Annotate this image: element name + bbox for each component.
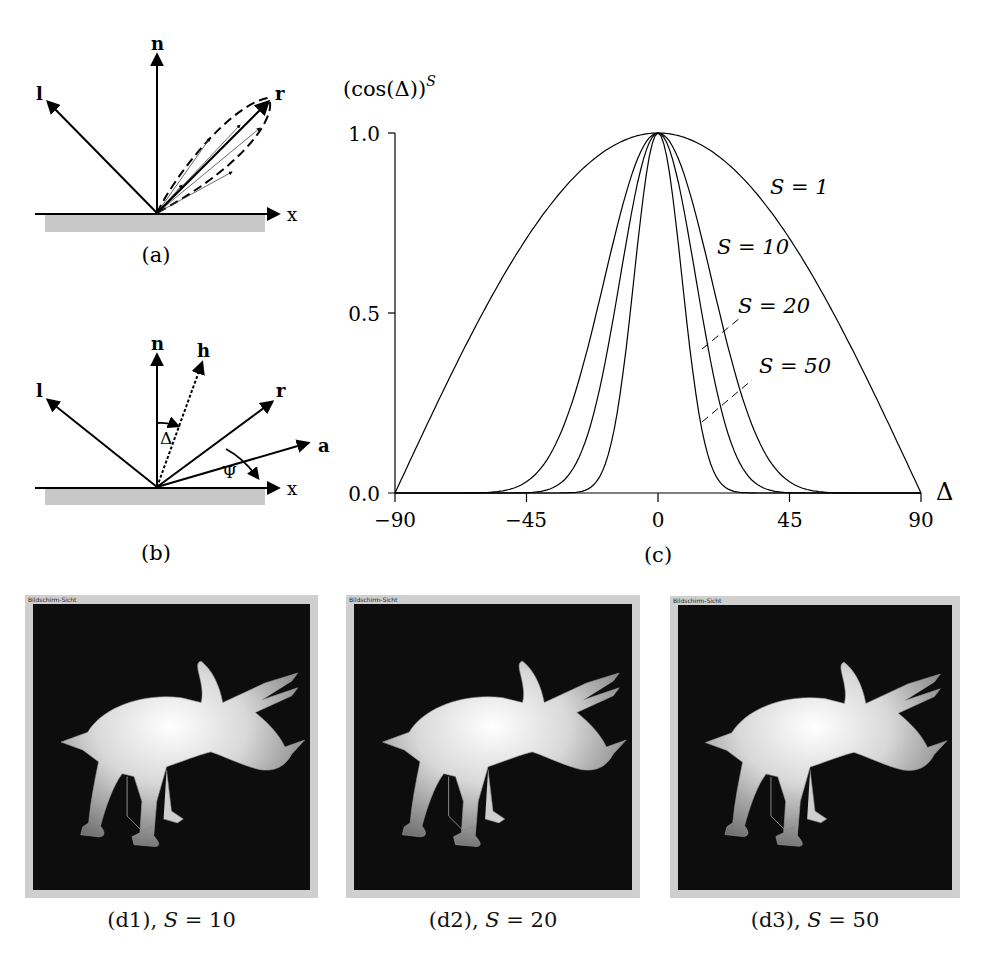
curve-label-s20: S = 20 [738, 294, 810, 318]
x-tick-90: 90 [908, 508, 933, 532]
render-viewport [354, 604, 632, 890]
label-n: n [151, 33, 164, 54]
caption-d1: (d1), S = 10 [25, 908, 318, 932]
window-title: Bildschirm-Sicht [673, 597, 721, 604]
label-r: r [276, 380, 286, 401]
surface [45, 489, 265, 505]
label-h: h [197, 340, 210, 361]
label-psi: Ψ [222, 462, 237, 482]
diagram-b: n h l r a x Δ Ψ (b) [0, 280, 330, 570]
label-x: x [287, 478, 297, 499]
triceratops-render [678, 605, 952, 890]
label-l: l [36, 83, 43, 104]
render-window-d1: Bildschirm-Sicht [25, 595, 318, 898]
curve-s10 [395, 133, 921, 493]
y-tick-0: 0.0 [348, 482, 380, 506]
specular-falloff-chart: (cos(Δ))S 1.0 0.5 0.0 −90 −45 0 45 90 Δ … [330, 60, 990, 590]
label-r: r [275, 83, 285, 104]
halfway-arrow [157, 363, 202, 487]
triceratops-render [33, 604, 310, 890]
x-tick-0: 0 [652, 508, 665, 532]
caption-d2: (d2), S = 20 [346, 908, 640, 932]
caption-b: (b) [141, 541, 171, 565]
curve-s50 [395, 133, 921, 493]
delta-arc [157, 423, 178, 426]
x-tick-m90: −90 [374, 508, 416, 532]
triceratops-render [354, 604, 632, 890]
y-axis-title: (cos(Δ))S [343, 73, 436, 101]
caption-a: (a) [142, 243, 171, 267]
surface [45, 215, 265, 232]
label-a: a [318, 435, 330, 456]
label-n: n [151, 333, 164, 354]
caption-c: (c) [644, 543, 672, 567]
diagram-a: n l r x (a) [0, 0, 320, 280]
render-window-d3: Bildschirm-Sicht [670, 596, 960, 898]
y-tick-1: 1.0 [348, 122, 380, 146]
label-x: x [287, 204, 297, 225]
render-viewport [678, 605, 952, 890]
caption-d3: (d3), S = 50 [670, 908, 960, 932]
curve-label-s10: S = 10 [717, 235, 789, 259]
window-title: Bildschirm-Sicht [349, 596, 397, 603]
curve-s1 [395, 133, 921, 493]
x-tick-45: 45 [777, 508, 802, 532]
x-axis-title: Δ [936, 478, 953, 506]
label-delta: Δ [160, 428, 172, 448]
reflection-arrow [157, 102, 268, 213]
render-viewport [33, 604, 310, 890]
y-tick-05: 0.5 [348, 302, 380, 326]
light-arrow [48, 400, 157, 487]
light-arrow [48, 102, 157, 213]
x-tick-m45: −45 [505, 508, 547, 532]
label-l: l [36, 380, 43, 401]
curve-s20 [395, 133, 921, 493]
curve-label-s1: S = 1 [770, 175, 829, 199]
render-window-d2: Bildschirm-Sicht [346, 595, 640, 898]
curve-label-s50: S = 50 [759, 354, 831, 378]
window-title: Bildschirm-Sicht [28, 596, 76, 603]
